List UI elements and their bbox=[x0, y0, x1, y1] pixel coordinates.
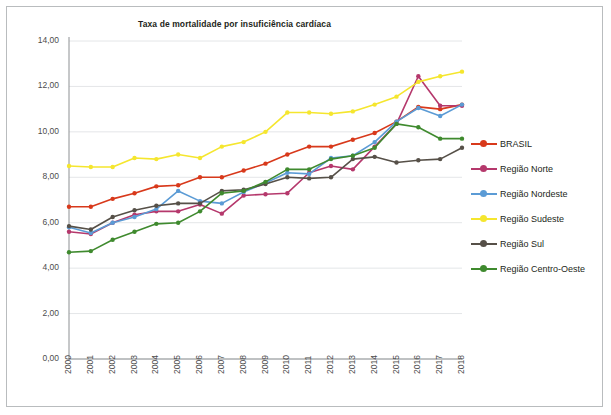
x-axis-tick-label: 2007 bbox=[216, 355, 226, 374]
data-point-marker bbox=[329, 111, 333, 115]
data-point-marker bbox=[438, 136, 442, 140]
y-axis-tick-label: 14,00 bbox=[15, 35, 59, 45]
data-point-marker bbox=[263, 161, 267, 165]
data-point-marker bbox=[438, 114, 442, 118]
legend-item[interactable]: Região Sudeste bbox=[471, 206, 599, 231]
data-point-marker bbox=[132, 156, 136, 160]
data-point-marker bbox=[220, 144, 224, 148]
data-point-marker bbox=[351, 138, 355, 142]
data-point-marker bbox=[154, 203, 158, 207]
data-point-marker bbox=[372, 146, 376, 150]
y-axis-tick-label: 0,00 bbox=[15, 353, 59, 363]
data-point-marker bbox=[351, 109, 355, 113]
legend-item-label: Região Sudeste bbox=[497, 214, 564, 224]
data-point-marker bbox=[351, 154, 355, 158]
series-line bbox=[69, 105, 462, 233]
x-axis-tick-label: 2008 bbox=[238, 355, 248, 374]
data-point-marker bbox=[351, 167, 355, 171]
data-point-marker bbox=[176, 183, 180, 187]
x-axis-tick-label: 2017 bbox=[434, 355, 444, 374]
data-point-marker bbox=[241, 168, 245, 172]
legend-item[interactable]: Região Norte bbox=[471, 156, 599, 181]
data-point-marker bbox=[89, 165, 93, 169]
legend-swatch-icon bbox=[471, 239, 497, 249]
x-axis-tick-label: 2005 bbox=[172, 355, 182, 374]
data-point-marker bbox=[89, 249, 93, 253]
data-point-marker bbox=[220, 201, 224, 205]
series-line bbox=[69, 76, 462, 234]
legend-swatch-icon bbox=[471, 139, 497, 149]
legend-swatch-icon bbox=[471, 264, 497, 274]
data-point-marker bbox=[154, 157, 158, 161]
legend-item-label: Região Centro-Oeste bbox=[497, 264, 585, 274]
data-point-marker bbox=[285, 175, 289, 179]
x-axis-tick-label: 2003 bbox=[129, 355, 139, 374]
data-point-marker bbox=[198, 209, 202, 213]
data-point-marker bbox=[285, 110, 289, 114]
y-axis-tick-label: 2,00 bbox=[15, 308, 59, 318]
data-point-marker bbox=[460, 146, 464, 150]
legend-item-label: Região Sul bbox=[497, 239, 544, 249]
x-axis-tick-label: 2013 bbox=[347, 355, 357, 374]
x-axis-tick-label: 2001 bbox=[85, 355, 95, 374]
legend-item[interactable]: Região Nordeste bbox=[471, 181, 599, 206]
data-point-marker bbox=[176, 189, 180, 193]
x-axis-tick-label: 2010 bbox=[281, 355, 291, 374]
data-point-marker bbox=[110, 221, 114, 225]
data-point-marker bbox=[67, 250, 71, 254]
x-axis-tick-label: 2009 bbox=[260, 355, 270, 374]
data-point-marker bbox=[307, 172, 311, 176]
data-point-marker bbox=[416, 158, 420, 162]
data-point-marker bbox=[241, 140, 245, 144]
data-point-marker bbox=[110, 197, 114, 201]
data-point-marker bbox=[394, 160, 398, 164]
y-axis-tick-label: 4,00 bbox=[15, 262, 59, 272]
data-point-marker bbox=[460, 136, 464, 140]
data-point-marker bbox=[154, 222, 158, 226]
data-point-marker bbox=[110, 165, 114, 169]
legend-item-label: Região Nordeste bbox=[497, 189, 568, 199]
data-point-marker bbox=[241, 189, 245, 193]
y-axis-tick-label: 12,00 bbox=[15, 80, 59, 90]
data-point-marker bbox=[438, 74, 442, 78]
data-point-marker bbox=[372, 102, 376, 106]
data-point-marker bbox=[198, 201, 202, 205]
data-point-marker bbox=[307, 144, 311, 148]
data-point-marker bbox=[220, 191, 224, 195]
legend-swatch-icon bbox=[471, 214, 497, 224]
series-line bbox=[69, 105, 462, 207]
data-point-marker bbox=[67, 205, 71, 209]
data-point-marker bbox=[416, 125, 420, 129]
chart-legend: BRASILRegião NorteRegião NordesteRegião … bbox=[471, 131, 599, 281]
data-point-marker bbox=[438, 157, 442, 161]
data-point-marker bbox=[372, 155, 376, 159]
legend-swatch-icon bbox=[471, 164, 497, 174]
x-axis-tick-label: 2006 bbox=[194, 355, 204, 374]
y-axis-tick-label: 6,00 bbox=[15, 217, 59, 227]
x-axis-tick-label: 2016 bbox=[412, 355, 422, 374]
data-point-marker bbox=[329, 164, 333, 168]
x-axis-tick-label: 2018 bbox=[456, 355, 466, 374]
chart-container: Taxa de mortalidade por insuficiência ca… bbox=[6, 6, 603, 407]
legend-item[interactable]: BRASIL bbox=[471, 131, 599, 156]
data-point-marker bbox=[307, 167, 311, 171]
data-point-marker bbox=[67, 164, 71, 168]
series-line bbox=[69, 124, 462, 252]
data-point-marker bbox=[372, 140, 376, 144]
data-point-marker bbox=[307, 110, 311, 114]
x-axis-tick-label: 2011 bbox=[303, 356, 313, 374]
data-point-marker bbox=[110, 215, 114, 219]
data-point-marker bbox=[132, 191, 136, 195]
x-axis-tick-label: 2002 bbox=[107, 355, 117, 374]
data-point-marker bbox=[110, 238, 114, 242]
y-axis-tick-label: 8,00 bbox=[15, 171, 59, 181]
data-point-marker bbox=[263, 130, 267, 134]
data-point-marker bbox=[220, 211, 224, 215]
data-point-marker bbox=[394, 122, 398, 126]
data-point-marker bbox=[263, 180, 267, 184]
data-point-marker bbox=[67, 224, 71, 228]
data-point-marker bbox=[198, 175, 202, 179]
data-point-marker bbox=[438, 104, 442, 108]
legend-item[interactable]: Região Centro-Oeste bbox=[471, 256, 599, 281]
legend-item[interactable]: Região Sul bbox=[471, 231, 599, 256]
